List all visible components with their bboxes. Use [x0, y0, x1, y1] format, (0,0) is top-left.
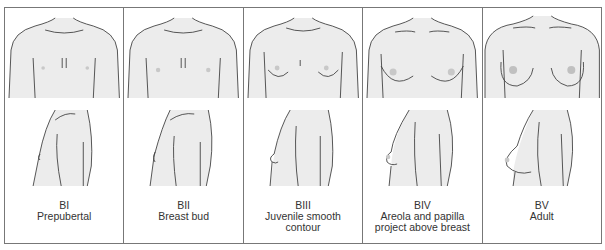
stage-panel-bii: BII Breast bud — [124, 8, 243, 243]
stage-description-line2: project above breast — [363, 222, 481, 233]
stage-description: Adult — [483, 211, 601, 222]
side-view-illustration — [124, 106, 242, 194]
stage-panel-bv: BV Adult — [483, 8, 601, 243]
side-view-illustration — [5, 106, 123, 194]
stage-caption: BV Adult — [483, 200, 601, 222]
stage-description: Prepubertal — [5, 211, 123, 222]
side-view-illustration — [483, 106, 601, 194]
tanner-stage-figure: BI Prepubertal BII Breast bud — [4, 7, 602, 244]
front-view-illustration — [124, 10, 242, 98]
stage-description-line2: contour — [244, 222, 362, 233]
stage-panel-biii: BIII Juvenile smooth contour — [244, 8, 363, 243]
stage-panel-biv: BIV Areola and papilla project above bre… — [363, 8, 482, 243]
side-view-illustration — [244, 106, 362, 194]
front-view-illustration — [5, 10, 123, 98]
front-view-illustration — [483, 10, 601, 98]
stage-description: Breast bud — [124, 211, 242, 222]
front-view-illustration — [244, 10, 362, 98]
stage-caption: BIII Juvenile smooth contour — [244, 200, 362, 233]
side-view-illustration — [363, 106, 481, 194]
front-view-illustration — [363, 10, 481, 98]
stage-panel-bi: BI Prepubertal — [5, 8, 124, 243]
stage-caption: BII Breast bud — [124, 200, 242, 222]
stage-caption: BI Prepubertal — [5, 200, 123, 222]
stage-caption: BIV Areola and papilla project above bre… — [363, 200, 481, 233]
